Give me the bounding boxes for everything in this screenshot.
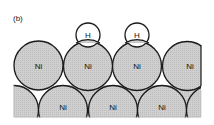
bottom-atom-label: Ni <box>59 103 67 112</box>
hydrogen-label: H <box>85 31 91 40</box>
adsorbed-hydrogen: H H <box>76 23 149 47</box>
bottom-atom-label: Ni <box>158 103 166 112</box>
panel-label: (b) <box>13 14 23 23</box>
top-atom-label: Ni <box>35 62 43 71</box>
top-atom-label: Ni <box>84 62 92 71</box>
bottom-atom-label: Ni <box>109 103 117 112</box>
top-atom-label: Ni <box>186 62 194 71</box>
nickel-hydrogen-diagram: (b) Ni Ni Ni Ni Ni Ni Ni <box>0 0 214 125</box>
hydrogen-label: H <box>134 31 140 40</box>
top-atom-label: Ni <box>133 62 141 71</box>
top-nickel-layer: Ni Ni Ni Ni <box>14 41 212 91</box>
